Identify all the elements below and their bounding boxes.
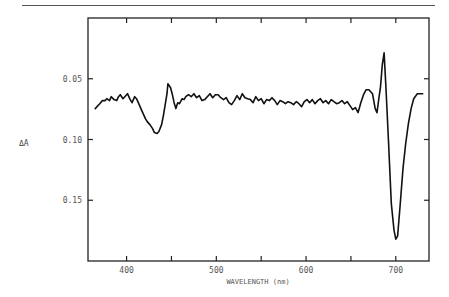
x-tick-label: 400 [119,266,134,275]
x-axis-ticks [127,18,396,261]
spectrum-chart: 400500600700 0.050.100.15 WAVELENGTH (nm… [0,0,449,297]
x-tick-label: 700 [389,266,404,275]
y-axis-ticks [88,79,429,201]
x-axis-title: WAVELENGTH (nm) [226,278,289,286]
y-axis-title: ΔA [19,139,29,148]
plot-frame [88,18,429,261]
x-tick-label: 600 [299,266,314,275]
y-tick-label: 0.15 [63,196,82,205]
x-tick-label: 500 [209,266,224,275]
x-axis-tick-labels: 400500600700 [119,266,403,275]
spectrum-line [95,53,423,239]
y-tick-label: 0.10 [63,136,82,145]
y-axis-tick-labels: 0.050.100.15 [63,75,82,206]
y-tick-label: 0.05 [63,75,82,84]
